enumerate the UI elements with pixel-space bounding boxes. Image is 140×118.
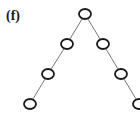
tree-node-l1 xyxy=(61,39,73,49)
tree-edge xyxy=(70,19,82,39)
tree-edge xyxy=(33,79,45,99)
tree-node-root xyxy=(79,9,91,19)
tree-edge xyxy=(51,49,64,69)
tree-edges xyxy=(33,19,136,99)
tree-diagram xyxy=(0,0,140,118)
tree-node-r1 xyxy=(97,39,109,49)
tree-node-r3 xyxy=(133,99,140,109)
tree-node-r2 xyxy=(115,69,127,79)
tree-edge xyxy=(88,19,100,39)
tree-node-l3 xyxy=(24,99,36,109)
tree-edge xyxy=(124,79,136,99)
tree-edge xyxy=(106,49,118,69)
tree-nodes xyxy=(24,9,140,109)
tree-node-l2 xyxy=(42,69,54,79)
